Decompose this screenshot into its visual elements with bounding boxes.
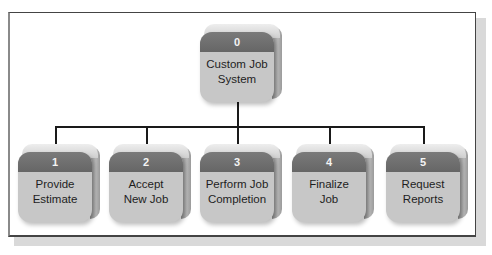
node-label-line2: New Job <box>109 192 183 207</box>
node-label: Custom Job System <box>200 57 274 87</box>
node-label-line2: Estimate <box>18 192 92 207</box>
node-face: 5 Request Reports <box>386 152 460 222</box>
node-3-perform-job-completion: 3 Perform Job Completion <box>200 144 278 222</box>
connector-horizontal <box>55 126 425 128</box>
node-label: Provide Estimate <box>18 177 92 207</box>
node-2-accept-new-job: 2 Accept New Job <box>109 144 187 222</box>
node-face: 1 Provide Estimate <box>18 152 92 222</box>
node-label: Accept New Job <box>109 177 183 207</box>
node-number: 0 <box>200 32 274 52</box>
node-label: Request Reports <box>386 177 460 207</box>
node-face: 4 Finalize Job <box>292 152 366 222</box>
node-label-line2: Completion <box>200 192 274 207</box>
node-face: 0 Custom Job System <box>200 32 274 102</box>
node-label-line1: Finalize <box>292 177 366 192</box>
node-number: 3 <box>200 152 274 172</box>
node-label-line2: System <box>200 72 274 87</box>
node-label-line1: Request <box>386 177 460 192</box>
node-label-line2: Reports <box>386 192 460 207</box>
node-1-provide-estimate: 1 Provide Estimate <box>18 144 96 222</box>
node-label: Finalize Job <box>292 177 366 207</box>
node-number: 2 <box>109 152 183 172</box>
node-label-line1: Provide <box>18 177 92 192</box>
connector-root-down <box>237 101 239 127</box>
node-face: 3 Perform Job Completion <box>200 152 274 222</box>
node-number: 4 <box>292 152 366 172</box>
node-label-line1: Perform Job <box>200 177 274 192</box>
node-5-request-reports: 5 Request Reports <box>386 144 464 222</box>
node-label-line2: Job <box>292 192 366 207</box>
node-0-custom-job-system: 0 Custom Job System <box>200 24 278 102</box>
node-number: 1 <box>18 152 92 172</box>
node-4-finalize-job: 4 Finalize Job <box>292 144 370 222</box>
node-face: 2 Accept New Job <box>109 152 183 222</box>
node-label-line1: Custom Job <box>200 57 274 72</box>
node-label: Perform Job Completion <box>200 177 274 207</box>
node-label-line1: Accept <box>109 177 183 192</box>
node-number: 5 <box>386 152 460 172</box>
